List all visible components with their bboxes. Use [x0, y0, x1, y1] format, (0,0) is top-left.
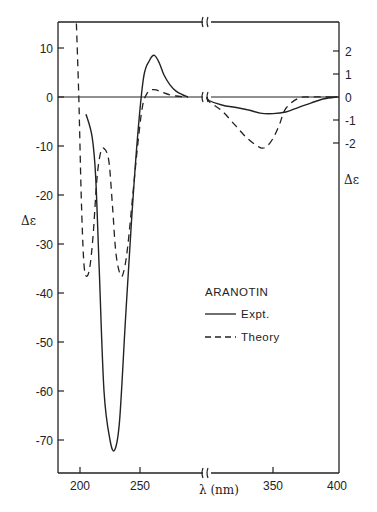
y-tick-label-right: 1	[345, 68, 352, 82]
legend-expt-label: Expt.	[241, 308, 270, 320]
x-tick-label: 200	[70, 479, 90, 493]
legend-title: ARANOTIN	[205, 286, 268, 298]
cd-spectrum-chart: 100-10-20-30-40-50-60-70210-1-2200250350…	[0, 0, 377, 512]
y-tick-label-right: 0	[345, 91, 352, 105]
x-axis-title: λ (nm)	[199, 483, 239, 497]
y-tick-label-right: 2	[345, 45, 352, 59]
y-axis-title-right: Δε	[344, 173, 359, 187]
y-tick-label-left: -50	[36, 336, 54, 350]
y-tick-label-left: 0	[46, 91, 53, 105]
expt-curve-left	[86, 55, 188, 451]
axis-ticks	[58, 48, 339, 473]
y-tick-label-left: -40	[36, 287, 54, 301]
y-tick-label-left: 10	[40, 42, 54, 56]
y-tick-label-left: -70	[36, 434, 54, 448]
y-tick-label-left: -20	[36, 189, 54, 203]
y-tick-label-right: -1	[345, 114, 356, 128]
legend-theory-label: Theory	[241, 331, 280, 343]
axis-break-marks	[202, 17, 208, 478]
x-tick-label: 350	[263, 479, 283, 493]
y-tick-label-right: -2	[345, 137, 356, 151]
expt-curve-right	[207, 97, 337, 114]
plot-frame	[58, 22, 339, 473]
x-tick-label: 400	[327, 479, 347, 493]
y-axis-title-left: Δε	[21, 214, 36, 228]
legend: ARANOTIN Expt. Theory	[205, 286, 280, 343]
x-tick-label: 250	[130, 479, 150, 493]
y-tick-label-left: -30	[36, 238, 54, 252]
theory-curve-right	[207, 97, 337, 148]
y-tick-label-left: -10	[36, 140, 54, 154]
y-tick-label-left: -60	[36, 385, 54, 399]
